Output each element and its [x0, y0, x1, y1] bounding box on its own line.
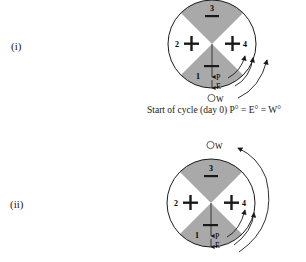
minus-sign-1: [204, 65, 219, 67]
cycle-diagram: 3 2 4 1 P E W 3 2 4 1 P E W: [0, 0, 306, 262]
marker-w: W: [215, 142, 223, 151]
quadrant-number-3: 3: [209, 164, 213, 173]
marker-e: E: [216, 82, 221, 91]
plus-sign-2: [184, 36, 199, 51]
quadrant-number-4: 4: [243, 40, 247, 49]
marker-w-circle: [207, 141, 214, 148]
marker-w-circle: [208, 94, 215, 101]
plus-sign-4: [225, 36, 240, 51]
wheel-panel-ii: 3 2 4 1 P E W: [167, 141, 269, 252]
marker-p: P: [216, 73, 221, 82]
minus-sign-3: [205, 15, 219, 17]
quadrant-number-4: 4: [242, 199, 246, 208]
caption-panel-i: Start of cycle (day 0) P° = E° = W°: [147, 105, 281, 115]
plus-sign-4: [224, 195, 239, 210]
quadrant-number-3: 3: [210, 4, 214, 13]
minus-sign-1: [203, 224, 218, 226]
plus-sign-2: [183, 195, 198, 210]
quadrant-number-1: 1: [195, 231, 199, 240]
marker-e: E: [215, 241, 220, 250]
quadrant-number-2: 2: [175, 40, 179, 49]
quadrant-number-1: 1: [196, 72, 200, 81]
arc-w: [238, 60, 267, 98]
quadrant-number-2: 2: [174, 199, 178, 208]
wheel-panel-i: 3 2 4 1 P E W: [168, 0, 267, 104]
marker-p: P: [215, 232, 220, 241]
minus-sign-3: [204, 175, 218, 177]
marker-w: W: [216, 95, 224, 104]
